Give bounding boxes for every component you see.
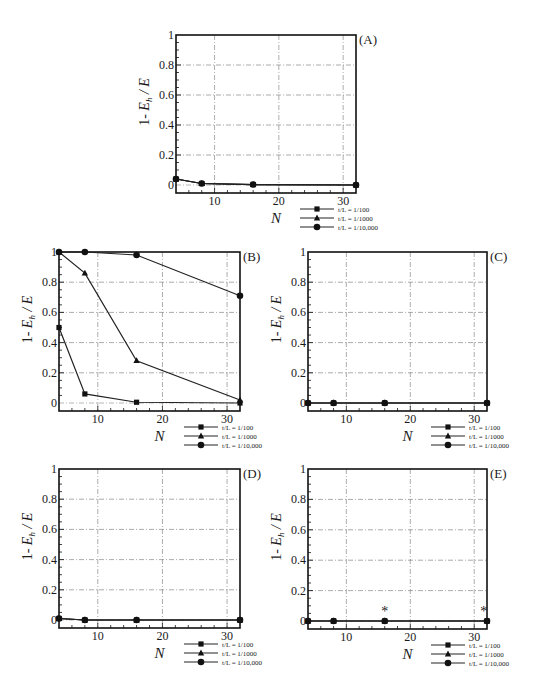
panel-label: (C) — [490, 249, 507, 264]
diamond-marker — [237, 292, 244, 299]
triangle-marker — [133, 357, 139, 363]
diamond-marker — [330, 618, 337, 625]
y-tick-label: 0.4 — [291, 336, 306, 350]
legend-diamond-icon — [445, 660, 452, 667]
legend-label: t/L = 1/100 — [469, 642, 501, 650]
diamond-marker — [198, 180, 205, 187]
diamond-marker — [173, 176, 180, 183]
panel-c: 10203000.20.40.60.81N1- Eh / E(C)t/L = 1… — [269, 245, 510, 450]
diamond-marker — [250, 181, 257, 188]
legend: t/L = 1/100t/L = 1/1000t/L = 1/10,000 — [431, 424, 510, 450]
x-tick-label: 10 — [340, 412, 352, 426]
legend-label: t/L = 1/10,000 — [222, 442, 263, 450]
panel-label: (B) — [243, 249, 260, 264]
plot-frame — [308, 469, 487, 629]
y-axis-label: 1- Eh / E — [137, 78, 154, 126]
legend: t/L = 1/100t/L = 1/1000t/L = 1/10,000 — [431, 642, 510, 668]
y-tick-label: 0.6 — [42, 305, 57, 319]
panel-e: 10203000.20.40.60.81N1- Eh / E(E)**t/L =… — [269, 462, 510, 668]
y-tick-label: 0.8 — [159, 58, 174, 72]
legend-square-icon — [198, 641, 203, 646]
square-marker — [56, 325, 61, 330]
y-tick-label: 0.4 — [291, 553, 306, 567]
y-tick-label: 0.2 — [291, 584, 306, 598]
legend-label: t/L = 1/1000 — [222, 433, 257, 441]
x-tick-label: 10 — [92, 412, 104, 426]
legend: t/L = 1/100t/L = 1/1000t/L = 1/10,000 — [300, 206, 379, 232]
legend-label: t/L = 1/10,000 — [338, 224, 379, 232]
y-tick-label: 1 — [300, 462, 306, 476]
y-tick-label: 0.2 — [291, 366, 306, 380]
panel-a: 10203000.20.40.60.81N1- Eh / E(A)t/L = 1… — [137, 28, 379, 232]
diamond-marker — [330, 400, 337, 407]
y-tick-label: 0.2 — [159, 148, 174, 162]
x-tick-label: 20 — [404, 412, 416, 426]
diamond-marker — [353, 182, 360, 189]
legend-label: t/L = 1/1000 — [469, 651, 504, 659]
y-axis-label: 1- Eh / E — [269, 513, 286, 561]
legend-square-icon — [445, 642, 450, 647]
x-tick-label: 10 — [340, 630, 352, 644]
y-tick-label: 0.4 — [42, 553, 57, 567]
legend-label: t/L = 1/100 — [222, 424, 254, 432]
legend-diamond-icon — [198, 442, 205, 449]
legend-square-icon — [445, 424, 450, 429]
panel-b: 10203000.20.40.60.81N1- Eh / E(B)t/L = 1… — [20, 245, 263, 450]
y-tick-label: 0.6 — [159, 88, 174, 102]
legend-label: t/L = 1/10,000 — [469, 660, 510, 668]
figure: 10203000.20.40.60.81N1- Eh / E(A)t/L = 1… — [0, 0, 539, 688]
y-tick-label: 0 — [51, 396, 57, 410]
asterisk-annotation: * — [480, 604, 487, 619]
legend-label: t/L = 1/10,000 — [222, 659, 263, 667]
x-tick-label: 20 — [404, 630, 416, 644]
legend: t/L = 1/100t/L = 1/1000t/L = 1/10,000 — [184, 424, 263, 450]
x-axis-label: N — [153, 428, 165, 444]
legend-label: t/L = 1/1000 — [222, 650, 257, 658]
legend-label: t/L = 1/1000 — [338, 215, 373, 223]
asterisk-annotation: * — [381, 604, 388, 619]
y-tick-label: 1 — [300, 245, 306, 259]
legend-label: t/L = 1/1000 — [469, 433, 504, 441]
legend-label: t/L = 1/100 — [469, 424, 501, 432]
y-axis-label: 1- Eh / E — [269, 295, 286, 343]
diamond-marker — [56, 615, 63, 622]
legend-label: t/L = 1/100 — [338, 206, 370, 214]
legend-label: t/L = 1/10,000 — [469, 442, 510, 450]
panel-label: (D) — [243, 466, 261, 481]
diamond-marker — [484, 400, 491, 407]
plot-frame — [59, 469, 240, 628]
x-axis-label: N — [401, 646, 413, 662]
y-tick-label: 0.2 — [42, 583, 57, 597]
legend: t/L = 1/100t/L = 1/1000t/L = 1/10,000 — [184, 641, 263, 667]
x-tick-label: 20 — [156, 412, 168, 426]
x-axis-label: N — [270, 210, 282, 226]
y-axis-label: 1- Eh / E — [20, 295, 37, 343]
y-axis-label: 1- Eh / E — [20, 512, 37, 560]
legend-diamond-icon — [445, 442, 452, 449]
diamond-marker — [237, 617, 244, 624]
x-axis-label: N — [401, 428, 413, 444]
diamond-marker — [56, 249, 63, 256]
x-tick-label: 20 — [156, 629, 168, 643]
x-axis-label: N — [153, 645, 165, 661]
y-tick-label: 0.6 — [291, 523, 306, 537]
chart-canvas: 10203000.20.40.60.81N1- Eh / E(A)t/L = 1… — [0, 0, 539, 688]
legend-diamond-icon — [314, 224, 321, 231]
legend-diamond-icon — [198, 659, 205, 666]
legend-label: t/L = 1/100 — [222, 641, 254, 649]
y-tick-label: 0.4 — [42, 336, 57, 350]
diamond-marker — [305, 618, 312, 625]
square-marker — [82, 391, 87, 396]
panel-label: (A) — [359, 32, 377, 47]
diamond-marker — [133, 617, 140, 624]
y-tick-label: 0.8 — [291, 492, 306, 506]
x-tick-label: 10 — [92, 629, 104, 643]
x-tick-label: 20 — [273, 194, 285, 208]
y-tick-label: 0.8 — [42, 275, 57, 289]
panel-label: (E) — [490, 466, 507, 481]
y-tick-label: 1 — [51, 462, 57, 476]
diamond-marker — [381, 400, 388, 407]
y-tick-label: 1 — [168, 28, 174, 42]
legend-square-icon — [198, 424, 203, 429]
x-tick-label: 10 — [209, 194, 221, 208]
